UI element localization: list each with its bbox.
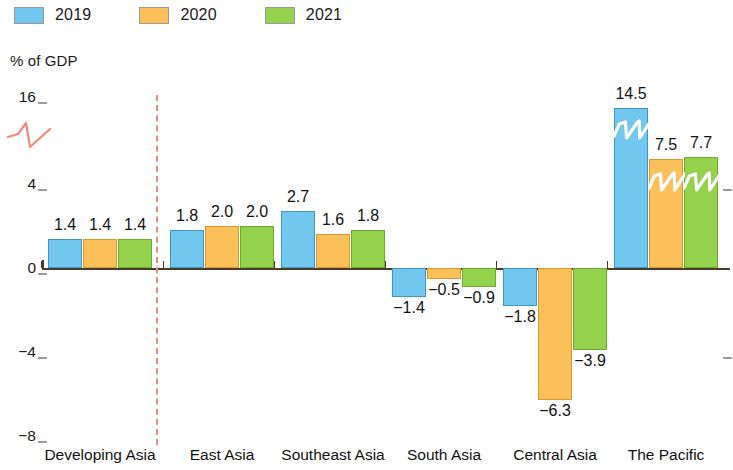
x-axis-tick-mark bbox=[385, 261, 386, 268]
y-axis-tick-mark bbox=[38, 358, 47, 359]
bar-value-label: −1.4 bbox=[393, 299, 425, 317]
bar[interactable] bbox=[351, 230, 385, 268]
x-axis-tick-mark bbox=[607, 261, 608, 268]
y-axis-tick-mark bbox=[38, 190, 47, 191]
x-axis-category-label: East Asia bbox=[190, 446, 255, 464]
bar[interactable] bbox=[427, 268, 461, 279]
bar-value-label: 2.0 bbox=[246, 203, 268, 221]
bar[interactable] bbox=[503, 268, 537, 306]
y-axis-tick-label: 16 bbox=[2, 88, 36, 106]
bar[interactable] bbox=[48, 239, 82, 268]
bar-value-label: −0.5 bbox=[428, 281, 460, 299]
plot-area: 1640−4−81.41.41.4Developing Asia1.82.02.… bbox=[0, 0, 733, 470]
bar-value-label: 14.5 bbox=[615, 85, 646, 103]
y-axis-tick-mark-right bbox=[723, 358, 732, 359]
bar[interactable] bbox=[614, 108, 648, 268]
bar-value-label: 1.4 bbox=[89, 216, 111, 234]
bar[interactable] bbox=[684, 157, 718, 268]
bar-value-label: 7.7 bbox=[690, 134, 712, 152]
x-axis-category-label: South Asia bbox=[407, 446, 481, 464]
bar-value-label: 1.8 bbox=[176, 207, 198, 225]
bar[interactable] bbox=[205, 226, 239, 268]
bar-value-label: 2.0 bbox=[211, 203, 233, 221]
y-axis-tick-mark-right bbox=[723, 190, 732, 191]
x-axis-tick-mark bbox=[274, 261, 275, 268]
x-axis-category-label: The Pacific bbox=[628, 446, 705, 464]
red-dashed-divider-line bbox=[156, 95, 158, 445]
bar[interactable] bbox=[118, 239, 152, 268]
bar[interactable] bbox=[538, 268, 572, 400]
bar-value-label: −6.3 bbox=[539, 402, 571, 420]
bar[interactable] bbox=[573, 268, 607, 350]
bar[interactable] bbox=[316, 234, 350, 268]
y-axis-stub bbox=[42, 260, 44, 268]
bar[interactable] bbox=[649, 159, 683, 268]
bar[interactable] bbox=[170, 230, 204, 268]
x-axis-category-label: Developing Asia bbox=[44, 446, 155, 464]
bar-value-label: 1.6 bbox=[322, 211, 344, 229]
bar[interactable] bbox=[240, 226, 274, 268]
bar-value-label: 7.5 bbox=[655, 136, 677, 154]
bar-value-label: −3.9 bbox=[574, 352, 606, 370]
bar[interactable] bbox=[462, 268, 496, 287]
bar-value-label: 1.4 bbox=[124, 216, 146, 234]
x-axis-tick-mark bbox=[41, 261, 42, 268]
zero-baseline bbox=[42, 268, 730, 270]
y-axis-tick-label: 0 bbox=[2, 259, 36, 277]
x-axis-tick-mark bbox=[496, 261, 497, 268]
bar-value-label: 1.4 bbox=[54, 216, 76, 234]
x-axis-tick-mark bbox=[163, 261, 164, 268]
bar-value-label: 2.7 bbox=[287, 188, 309, 206]
y-axis-break-zigzag-icon bbox=[6, 113, 54, 157]
x-axis-category-label: Southeast Asia bbox=[281, 446, 384, 464]
bar[interactable] bbox=[281, 211, 315, 268]
bar-value-label: −1.8 bbox=[504, 308, 536, 326]
bar[interactable] bbox=[83, 239, 117, 268]
y-axis-tick-label: −8 bbox=[2, 427, 36, 445]
y-axis-tick-mark bbox=[38, 103, 47, 104]
y-axis-tick-mark bbox=[38, 274, 47, 275]
y-axis-tick-mark bbox=[38, 442, 47, 443]
x-axis-category-label: Central Asia bbox=[513, 446, 597, 464]
y-axis-tick-label: 4 bbox=[2, 175, 36, 193]
bar[interactable] bbox=[392, 268, 426, 297]
bar-chart: 2019 2020 2021 % of GDP 1640−4−81.41.41.… bbox=[0, 0, 733, 470]
bar-value-label: 1.8 bbox=[357, 207, 379, 225]
bar-value-label: −0.9 bbox=[463, 289, 495, 307]
y-axis-tick-label: −4 bbox=[2, 343, 36, 361]
